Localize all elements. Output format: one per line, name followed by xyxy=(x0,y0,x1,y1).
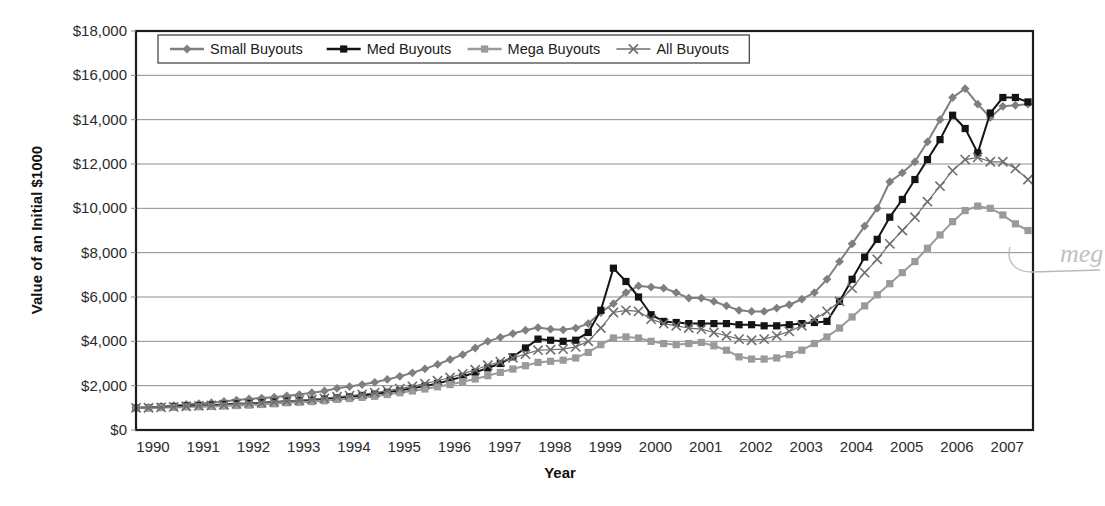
data-point xyxy=(622,278,629,285)
chart-legend[interactable]: Small BuyoutsMed BuyoutsMega BuyoutsAll … xyxy=(158,35,749,63)
data-point xyxy=(458,350,467,359)
data-point xyxy=(522,362,529,369)
data-point xyxy=(697,294,706,303)
data-point xyxy=(547,337,554,344)
data-point xyxy=(459,378,466,385)
data-point xyxy=(634,282,643,291)
data-point xyxy=(773,354,780,361)
x-tick-label: 1996 xyxy=(438,438,471,455)
data-point xyxy=(522,344,529,351)
data-point xyxy=(886,280,893,287)
y-tick-label: $10,000 xyxy=(73,199,127,216)
data-point xyxy=(786,351,793,358)
legend-swatch-marker xyxy=(481,45,488,52)
data-point xyxy=(760,307,769,316)
data-point xyxy=(847,284,856,293)
y-axis-title: Value of an Initial $1000 xyxy=(28,146,45,314)
data-point xyxy=(647,338,654,345)
x-tick-label: 1991 xyxy=(187,438,220,455)
data-point xyxy=(660,340,667,347)
data-point xyxy=(433,360,442,369)
data-point xyxy=(962,207,969,214)
data-point xyxy=(936,136,943,143)
x-axis-title: Year xyxy=(544,464,576,481)
data-point xyxy=(962,125,969,132)
data-point xyxy=(735,321,742,328)
data-point xyxy=(684,294,693,303)
data-point xyxy=(496,333,505,342)
data-point xyxy=(596,323,605,332)
data-point xyxy=(610,265,617,272)
data-point xyxy=(647,283,656,292)
x-tick-label: 1994 xyxy=(337,438,370,455)
data-point xyxy=(709,297,718,306)
data-point xyxy=(949,218,956,225)
series-line xyxy=(136,206,1028,408)
data-point xyxy=(823,318,830,325)
data-point xyxy=(635,293,642,300)
x-tick-label: 1997 xyxy=(488,438,521,455)
data-point xyxy=(635,334,642,341)
data-point xyxy=(497,369,504,376)
data-point xyxy=(761,322,768,329)
data-point xyxy=(923,197,932,206)
data-point xyxy=(772,304,781,313)
chart-container: $18,000$16,000$14,000$12,000$10,000$8,00… xyxy=(0,0,1105,506)
data-point xyxy=(786,321,793,328)
legend-label[interactable]: Small Buyouts xyxy=(210,41,303,57)
series-line xyxy=(136,157,1028,407)
data-point xyxy=(508,329,517,338)
data-point xyxy=(899,196,906,203)
x-tick-label: 1998 xyxy=(538,438,571,455)
legend-label[interactable]: All Buyouts xyxy=(656,41,729,57)
data-point xyxy=(722,331,731,340)
data-point xyxy=(534,323,543,332)
y-axis-tick-labels: $18,000$16,000$14,000$12,000$10,000$8,00… xyxy=(73,22,136,438)
data-point xyxy=(861,254,868,261)
legend-label[interactable]: Mega Buyouts xyxy=(508,41,601,57)
data-point xyxy=(710,320,717,327)
y-tick-label: $18,000 xyxy=(73,22,127,39)
data-point xyxy=(585,329,592,336)
data-point xyxy=(885,239,894,248)
data-point xyxy=(823,333,830,340)
series-small-buyouts xyxy=(132,84,1033,412)
data-point xyxy=(785,300,794,309)
y-tick-label: $14,000 xyxy=(73,111,127,128)
data-point xyxy=(1024,98,1031,105)
data-point xyxy=(610,334,617,341)
x-tick-label: 2003 xyxy=(790,438,823,455)
data-point xyxy=(509,365,516,372)
plot-area-frame xyxy=(136,31,1033,430)
data-point xyxy=(987,109,994,116)
data-point xyxy=(723,320,730,327)
data-point xyxy=(572,337,579,344)
data-point xyxy=(546,325,555,334)
data-point xyxy=(949,112,956,119)
data-point xyxy=(698,339,705,346)
data-point xyxy=(924,156,931,163)
data-point xyxy=(710,342,717,349)
y-tick-label: $12,000 xyxy=(73,155,127,172)
data-point xyxy=(886,214,893,221)
data-point xyxy=(936,231,943,238)
x-tick-label: 2006 xyxy=(940,438,973,455)
data-point xyxy=(798,347,805,354)
x-tick-label: 2000 xyxy=(639,438,672,455)
data-point xyxy=(659,284,668,293)
data-point xyxy=(383,375,392,384)
x-tick-label: 2002 xyxy=(739,438,772,455)
series-mega-buyouts xyxy=(132,203,1031,412)
data-point xyxy=(597,307,604,314)
data-point xyxy=(560,357,567,364)
y-tick-label: $0 xyxy=(110,421,127,438)
data-point xyxy=(484,372,491,379)
legend-label[interactable]: Med Buyouts xyxy=(367,41,452,57)
handwritten-annotation: meg xyxy=(1009,239,1103,272)
data-point xyxy=(924,245,931,252)
y-tick-label: $4,000 xyxy=(81,332,127,349)
x-tick-label: 2005 xyxy=(890,438,923,455)
data-point xyxy=(948,166,957,175)
gridlines xyxy=(136,31,1033,386)
series-all-buyouts xyxy=(131,153,1032,413)
